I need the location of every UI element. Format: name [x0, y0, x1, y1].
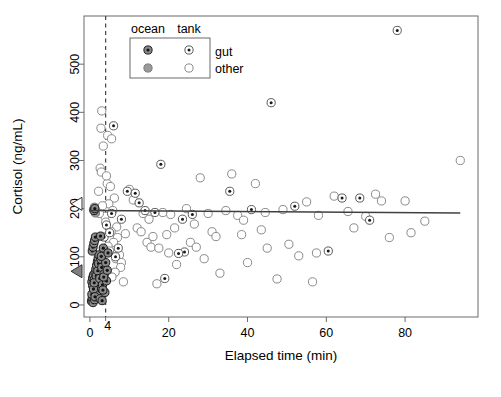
data-point-tank-other: [190, 220, 198, 228]
data-point-tank-gut-center: [134, 192, 137, 195]
data-point-tank-gut-center: [327, 250, 330, 253]
data-point-tank-other: [97, 124, 105, 132]
legend-column-header-ocean: ocean: [131, 22, 165, 36]
data-point-tank-gut-center: [181, 218, 184, 221]
data-point-tank-gut-center: [108, 231, 111, 234]
data-point-ocean-gut-center: [93, 207, 96, 210]
data-point-tank-other: [371, 190, 379, 198]
data-point-tank-other: [251, 179, 259, 187]
data-point-tank-other: [153, 280, 161, 288]
y-axis-title: Cortisol (ng/mL): [10, 118, 25, 214]
data-point-tank-gut-center: [191, 213, 194, 216]
data-point-tank-other: [263, 244, 271, 252]
data-point-tank-other: [192, 243, 200, 251]
data-point-tank-gut-center: [270, 101, 273, 104]
data-point-tank-other: [273, 275, 281, 283]
data-point-tank-other: [155, 244, 163, 252]
data-point-tank-other: [377, 197, 385, 205]
data-point-tank-other: [385, 233, 393, 241]
legend-row-label-other: other: [215, 62, 244, 76]
x-tick-label: 20: [162, 326, 176, 340]
plot-canvas: 01002003004005000204060804Elapsed time (…: [0, 0, 501, 397]
y-tick-label: 400: [68, 102, 82, 123]
data-point-tank-gut-center: [163, 277, 166, 280]
data-point-ocean-gut-center: [106, 269, 109, 272]
data-point-ocean-gut-center: [102, 247, 105, 250]
data-point-tank-other: [172, 260, 180, 268]
data-point-tank-other: [216, 269, 224, 277]
x-tick-label: 60: [319, 326, 333, 340]
data-point-tank-gut-center: [396, 29, 399, 32]
data-point-tank-gut-center: [120, 218, 123, 221]
data-point-tank-other: [106, 182, 114, 190]
data-point-tank-other: [98, 202, 106, 210]
data-point-tank-other: [303, 198, 311, 206]
data-point-tank-gut-center: [341, 197, 344, 200]
data-point-tank-other: [295, 252, 303, 260]
data-point-tank-other: [102, 172, 110, 180]
legend-box: [130, 38, 210, 78]
x-tick-label: 80: [398, 326, 412, 340]
data-point-tank-other: [222, 206, 230, 214]
data-point-ocean-gut-center: [102, 275, 105, 278]
data-point-tank-gut-center: [177, 252, 180, 255]
data-point-tank-gut-center: [110, 212, 113, 215]
data-point-tank-other: [165, 249, 173, 257]
data-point-tank-gut-center: [358, 197, 361, 200]
x-axis-title: Elapsed time (min): [225, 348, 338, 363]
data-point-ocean-gut-center: [104, 261, 107, 264]
data-point-tank-other: [196, 174, 204, 182]
data-point-tank-other: [228, 170, 236, 178]
data-point-ocean-gut-center: [106, 251, 109, 254]
data-point-tank-other: [421, 217, 429, 225]
x-tick-label-special: 4: [104, 319, 111, 333]
data-point-tank-gut-center: [112, 124, 115, 127]
y-tick-label: 500: [68, 54, 82, 75]
data-point-tank-gut-center: [228, 190, 231, 193]
legend-row-label-gut: gut: [215, 45, 233, 59]
data-point-tank-other: [171, 224, 179, 232]
data-point-tank-other: [159, 208, 167, 216]
data-point-tank-other: [119, 278, 127, 286]
data-point-tank-other: [98, 107, 106, 115]
data-point-tank-other: [212, 232, 220, 240]
data-point-tank-gut-center: [293, 205, 296, 208]
x-tick-label: 40: [241, 326, 255, 340]
data-point-ocean-gut-center: [101, 288, 104, 291]
data-point-tank-other: [407, 229, 415, 237]
data-point-tank-other: [99, 142, 107, 150]
data-point-tank-other: [94, 187, 102, 195]
data-point-tank-other: [185, 64, 193, 72]
data-point-ocean-gut-center: [101, 299, 104, 302]
data-point-ocean-other: [144, 64, 152, 72]
legend-column-header-tank: tank: [177, 22, 201, 36]
data-point-tank-other: [107, 135, 115, 143]
data-point-tank-other: [257, 226, 265, 234]
data-point-tank-gut-center: [105, 224, 108, 227]
data-point-tank-other: [401, 197, 409, 205]
data-point-ocean-gut-center: [99, 234, 102, 237]
data-point-ocean-gut-center: [100, 255, 103, 258]
data-point-tank-gut-center: [368, 219, 371, 222]
data-point-tank-other: [312, 249, 320, 257]
data-point-ocean-gut-center: [92, 287, 95, 290]
data-point-tank-gut-center: [114, 255, 117, 258]
data-point-tank-other: [239, 216, 247, 224]
data-point-tank-other: [456, 156, 464, 164]
cortisol-scatter-figure: 01002003004005000204060804Elapsed time (…: [0, 0, 501, 397]
data-point-tank-other: [149, 232, 157, 240]
data-point-tank-other: [330, 192, 338, 200]
data-point-tank-gut-center: [188, 49, 191, 52]
data-point-tank-other: [163, 231, 171, 239]
data-point-tank-gut-center: [250, 208, 253, 211]
data-point-tank-other: [200, 255, 208, 263]
data-point-tank-other: [121, 230, 129, 238]
data-point-tank-gut-center: [138, 201, 141, 204]
data-point-tank-other: [243, 258, 251, 266]
data-point-tank-gut-center: [183, 250, 186, 253]
data-point-tank-gut-center: [126, 190, 129, 193]
y-tick-label: 300: [68, 150, 82, 171]
data-point-tank-other: [350, 224, 358, 232]
data-point-ocean-gut-center: [146, 48, 149, 51]
data-point-ocean-gut-center: [93, 281, 96, 284]
